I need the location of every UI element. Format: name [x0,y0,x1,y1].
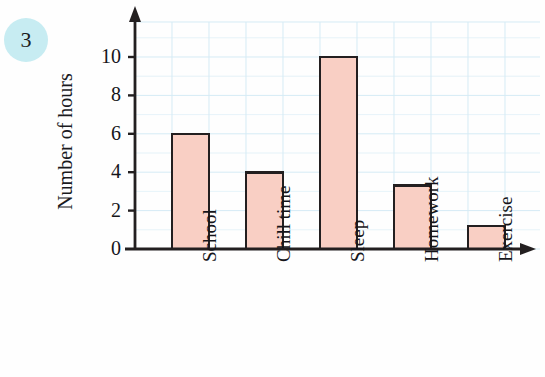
y-tick-label: 6 [87,123,121,143]
x-category-label: Exercise [496,142,515,262]
x-category-label: Sleep [348,142,367,262]
y-tick-label: 8 [87,84,121,104]
y-tick-label: 4 [87,161,121,181]
x-category-label: School [200,142,219,262]
y-axis-title: Number of hours [54,37,77,247]
x-category-label: Chill time [274,142,293,262]
worksheet-page: 3 Number of hours 0246810 SchoolChill ti… [0,0,545,377]
y-axis-arrow [129,6,141,22]
y-tick-label: 0 [87,238,121,258]
y-tick-label: 10 [87,46,121,66]
y-tick-label: 2 [87,200,121,220]
bar-chart: Number of hours 0246810 SchoolChill time… [0,0,545,377]
x-axis-arrow [520,243,536,255]
x-category-label: Homework [422,142,441,262]
